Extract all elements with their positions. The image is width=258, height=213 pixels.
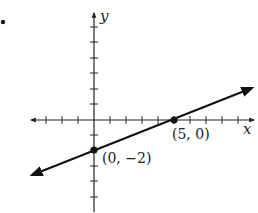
list-bullet (1, 20, 5, 24)
coordinate-graph: y x (5, 0) (0, −2) (0, 0, 258, 213)
point-label-0-neg2: (0, −2) (102, 150, 151, 166)
point-5-0 (171, 117, 178, 124)
y-axis-label: y (99, 7, 109, 25)
point-0-neg2 (91, 147, 98, 154)
point-label-5-0: (5, 0) (172, 126, 210, 142)
x-axis-label: x (243, 120, 252, 138)
